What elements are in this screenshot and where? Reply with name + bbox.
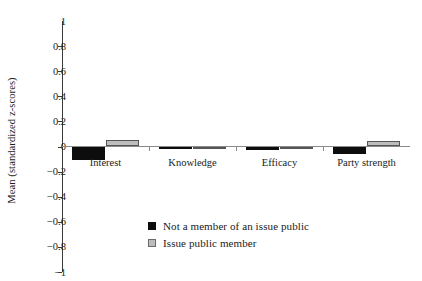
bar [246, 147, 279, 151]
x-axis-tick-mark [149, 147, 150, 151]
y-axis-tick-label: 1 [22, 14, 66, 28]
legend-item-label: Issue public member [163, 237, 257, 249]
x-axis-category-label: Interest [62, 154, 149, 170]
bar [193, 147, 226, 149]
legend-item: Not a member of an issue public [148, 218, 309, 233]
y-axis-tick-mark [58, 272, 62, 273]
bar [159, 147, 192, 150]
x-axis-category-label: Efficacy [236, 154, 323, 170]
bar-chart-figure: Mean (standardized z-scores) 10.80.60.40… [0, 0, 422, 281]
bar [367, 141, 400, 146]
x-axis-tick-mark [236, 147, 237, 151]
outlined-square-icon [148, 239, 156, 247]
legend-item-label: Not a member of an issue public [163, 220, 309, 232]
legend-item: Issue public member [148, 235, 309, 250]
y-axis-title: Mean (standardized z-scores) [0, 0, 22, 281]
x-axis-category-label: Knowledge [149, 154, 236, 170]
legend: Not a member of an issue publicIssue pub… [148, 218, 309, 252]
bar [333, 147, 366, 155]
x-axis-category-label: Party strength [323, 154, 410, 170]
bar [280, 147, 313, 149]
bar [106, 140, 139, 146]
x-axis-tick-mark [323, 147, 324, 151]
filled-square-icon [148, 222, 156, 230]
